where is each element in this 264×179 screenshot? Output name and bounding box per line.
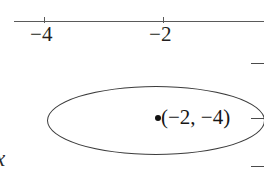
x-axis-name-label: x: [0, 147, 5, 170]
point-coordinate-label: (−2, −4): [161, 107, 230, 128]
x-axis-tick-label-minus-2: −2: [149, 24, 172, 45]
graph-figure: −4 −2 (−2, −4) x: [0, 0, 264, 179]
y-axis-tick-stub-bottom: [251, 166, 264, 167]
y-axis-tick-stub-top: [251, 63, 264, 64]
x-axis-tick-label-minus-4: −4: [30, 24, 53, 45]
